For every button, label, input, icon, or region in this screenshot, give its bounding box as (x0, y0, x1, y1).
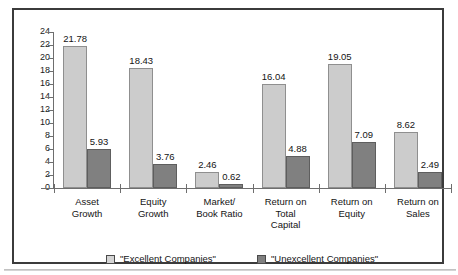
category-label-line: Sales (379, 208, 457, 220)
y-axis-tick-label: 24 (28, 27, 50, 36)
bar[interactable] (328, 64, 352, 188)
y-axis-tick-mark (48, 97, 54, 98)
y-axis-tick-label: 2 (28, 170, 50, 179)
y-axis-tick-mark (48, 58, 54, 59)
plot-area: 21.785.9318.433.762.460.6216.044.8819.05… (54, 32, 451, 188)
bar-group: 16.044.88 (253, 32, 319, 188)
bar-value-label: 2.49 (412, 160, 448, 170)
bottom-divider (4, 269, 456, 271)
y-axis-tick-mark (48, 162, 54, 163)
x-axis-line (41, 188, 451, 189)
bar-value-label: 8.62 (388, 120, 424, 130)
legend-swatch-dark (257, 255, 266, 264)
bar-group: 2.460.62 (186, 32, 252, 188)
y-axis-labels: 024681012141618202224 (24, 10, 50, 275)
y-axis-tick-mark (48, 84, 54, 85)
y-axis-tick-mark (48, 45, 54, 46)
bar-value-label: 3.76 (147, 152, 183, 162)
y-axis-tick-mark (48, 123, 54, 124)
figure: 024681012141618202224 21.785.9318.433.76… (0, 0, 458, 275)
y-axis-tick-label: 18 (28, 66, 50, 75)
y-axis-tick-label: 16 (28, 79, 50, 88)
chart-frame: 024681012141618202224 21.785.9318.433.76… (12, 8, 444, 264)
legend-item[interactable]: "Unexcellent Companies" (257, 253, 378, 265)
bar-value-label: 18.43 (123, 56, 159, 66)
bar-group: 18.433.76 (120, 32, 186, 188)
legend-swatch-light (106, 255, 115, 264)
y-axis-tick-mark (48, 32, 54, 33)
bar-value-label: 21.78 (57, 34, 93, 44)
y-axis-tick-label: 22 (28, 40, 50, 49)
x-axis-tick-mark (385, 184, 386, 193)
bar[interactable] (87, 149, 111, 188)
bar[interactable] (352, 142, 376, 188)
x-axis-tick-mark (253, 184, 254, 193)
y-axis-tick-mark (48, 149, 54, 150)
y-axis-tick-label: 6 (28, 144, 50, 153)
legend-label: "Excellent Companies" (120, 253, 216, 265)
bar-group: 21.785.93 (54, 32, 120, 188)
y-axis-tick-label: 14 (28, 92, 50, 101)
y-axis-tick-mark (48, 136, 54, 137)
bar-value-label: 4.88 (280, 144, 316, 154)
bar-value-label: 19.05 (322, 52, 358, 62)
category-label-line: Capital (247, 219, 325, 231)
bar-group: 8.622.49 (385, 32, 451, 188)
legend-item[interactable]: "Excellent Companies" (106, 253, 216, 265)
bar-value-label: 7.09 (346, 130, 382, 140)
category-label-line: Return on (379, 196, 457, 208)
y-axis-tick-label: 4 (28, 157, 50, 166)
x-axis-category-label: Return onSales (379, 196, 457, 219)
bar[interactable] (286, 156, 310, 188)
bar-group: 19.057.09 (319, 32, 385, 188)
y-axis-tick-label: 8 (28, 131, 50, 140)
bar-value-label: 16.04 (256, 72, 292, 82)
bar[interactable] (129, 68, 153, 188)
x-axis-tick-mark (319, 184, 320, 193)
y-axis-tick-label: 10 (28, 118, 50, 127)
bar-value-label: 5.93 (81, 137, 117, 147)
bar[interactable] (262, 84, 286, 188)
x-axis-tick-mark (54, 184, 55, 193)
y-axis-tick-mark (48, 71, 54, 72)
bar[interactable] (153, 164, 177, 188)
chart-legend: "Excellent Companies""Unexcellent Compan… (14, 253, 446, 269)
bar-value-label: 2.46 (189, 160, 225, 170)
legend-label: "Unexcellent Companies" (271, 253, 378, 265)
x-axis-tick-mark (186, 184, 187, 193)
y-axis-tick-mark (48, 110, 54, 111)
bar[interactable] (418, 172, 442, 188)
x-axis-tick-mark (451, 184, 452, 193)
x-axis-tick-mark (120, 184, 121, 193)
bar[interactable] (63, 46, 87, 188)
bar-value-label: 0.62 (213, 172, 249, 182)
y-axis-tick-mark (48, 175, 54, 176)
y-axis-tick-label: 20 (28, 53, 50, 62)
y-axis-tick-label: 12 (28, 105, 50, 114)
